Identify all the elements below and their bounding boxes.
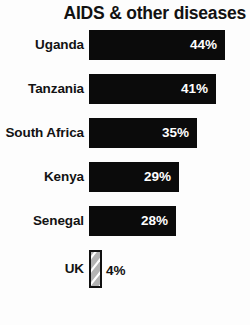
bar-track: 28% [89,206,176,236]
bar-category-label: Senegal [33,206,84,236]
bar-value-label: 28% [141,206,168,236]
bar-value-label: 41% [181,74,208,104]
bar-chart: AIDS & other diseases Uganda 44% Tanzani… [0,0,250,325]
bar-value-label: 35% [162,118,189,148]
bar-category-label: Uganda [35,30,84,60]
bar-category-label: South Africa [5,118,84,148]
bar-track: 4% [89,250,102,288]
bar-fill: 28% [89,206,176,236]
bar-value-label: 29% [144,162,171,192]
bar-row: Uganda 44% [0,30,250,60]
bar-value-label: 44% [190,30,217,60]
bar-category-label: Tanzania [28,74,84,104]
bar-rows: Uganda 44% Tanzania 41% South Africa 35% [0,30,250,288]
bar-row: Kenya 29% [0,162,250,192]
bar-fill: 44% [89,30,225,60]
bar-fill: 35% [89,118,197,148]
bar-category-label: UK [65,250,84,288]
bar-fill: 41% [89,74,216,104]
bar-category-label: Kenya [44,162,84,192]
bar-track: 29% [89,162,179,192]
bar-track: 44% [89,30,225,60]
chart-title: AIDS & other diseases [0,3,246,24]
bar-fill-hatched: 4% [89,250,102,288]
bar-row: UK 4% [0,250,250,288]
bar-fill: 29% [89,162,179,192]
bar-row: Tanzania 41% [0,74,250,104]
bar-track: 35% [89,118,197,148]
bar-track: 41% [89,74,216,104]
bar-row: South Africa 35% [0,118,250,148]
bar-row: Senegal 28% [0,206,250,236]
bar-value-label: 4% [106,252,126,290]
diagonal-hatch-pattern [91,252,100,286]
